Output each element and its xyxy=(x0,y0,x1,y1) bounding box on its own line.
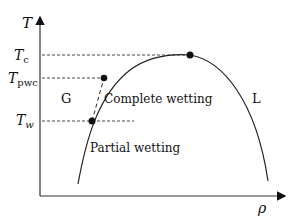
phase-diagram: T ρ Tc Tpwc Tw G L Complete wetting Part… xyxy=(0,0,296,217)
tpwc-label: Tpwc xyxy=(8,70,38,88)
coexistence-curve xyxy=(78,55,268,184)
tw-label: Tw xyxy=(16,112,34,130)
y-axis-label: T xyxy=(22,14,33,32)
liquid-region-label: L xyxy=(252,91,261,106)
wetting-point xyxy=(89,118,96,125)
tc-label: Tc xyxy=(14,47,29,65)
gas-region-label: G xyxy=(61,91,71,106)
prewetting-critical-point xyxy=(101,75,108,82)
prewetting-line xyxy=(92,78,104,121)
partial-wetting-label: Partial wetting xyxy=(90,141,180,155)
complete-wetting-label: Complete wetting xyxy=(104,92,213,106)
x-axis-label: ρ xyxy=(257,200,267,216)
critical-point xyxy=(187,52,194,59)
